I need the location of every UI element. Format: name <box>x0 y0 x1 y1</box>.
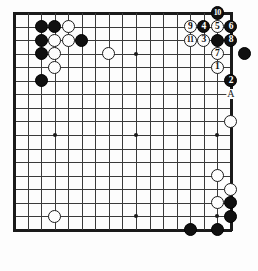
grid-line-vertical <box>122 13 123 230</box>
board-edge-vertical <box>13 12 16 231</box>
stone-black <box>224 210 237 223</box>
stone-black <box>184 223 197 236</box>
grid-line-vertical <box>163 13 164 230</box>
stone-white <box>48 61 61 74</box>
star-point <box>215 133 219 137</box>
stone-white <box>62 20 75 33</box>
stone-white <box>48 47 61 60</box>
stone-white <box>48 210 61 223</box>
move-stone-white-11: 11 <box>184 34 197 47</box>
move-number-label: 2 <box>225 75 236 86</box>
move-stone-white-5: 5 <box>211 20 224 33</box>
stone-black <box>224 196 237 209</box>
move-number-label: 6 <box>225 21 236 32</box>
stone-black <box>35 74 48 87</box>
stone-black <box>48 20 61 33</box>
grid-line-vertical <box>95 13 96 230</box>
move-stone-black-4: 4 <box>197 20 210 33</box>
star-point <box>134 214 138 218</box>
go-board-diagram: A9456101138712 <box>0 0 258 271</box>
move-stone-white-1: 1 <box>211 61 224 74</box>
move-number-label: 10 <box>212 7 223 18</box>
grid-line-vertical <box>177 13 178 230</box>
grid-line-vertical <box>136 13 137 230</box>
board-marker-a: A <box>226 89 235 99</box>
stone-white <box>224 115 237 128</box>
move-number-label: 8 <box>225 35 236 46</box>
stone-white <box>211 196 224 209</box>
move-stone-white-7: 7 <box>211 47 224 60</box>
move-number-label: 5 <box>212 21 223 32</box>
move-number-label: 1 <box>212 62 223 73</box>
stone-black <box>35 34 48 47</box>
stone-black <box>35 47 48 60</box>
move-stone-white-3: 3 <box>197 34 210 47</box>
grid-line-vertical <box>150 13 151 230</box>
move-number-label: 11 <box>185 35 196 46</box>
stone-black <box>211 223 224 236</box>
move-number-label: 9 <box>185 21 196 32</box>
move-stone-black-2: 2 <box>224 74 237 87</box>
star-point <box>134 52 138 56</box>
stone-white <box>48 34 61 47</box>
stone-black <box>35 20 48 33</box>
move-number-label: 4 <box>198 21 209 32</box>
stone-black <box>238 47 251 60</box>
go-board-grid: A9456101138712 <box>0 0 258 271</box>
stone-white <box>102 47 115 60</box>
stone-black <box>211 34 224 47</box>
move-stone-black-8: 8 <box>224 34 237 47</box>
star-point <box>215 214 219 218</box>
stone-white <box>211 169 224 182</box>
grid-line-vertical <box>28 13 29 230</box>
stone-black <box>75 34 88 47</box>
move-number-label: 7 <box>212 48 223 59</box>
star-point <box>134 133 138 137</box>
grid-line-vertical <box>109 13 110 230</box>
move-stone-white-9: 9 <box>184 20 197 33</box>
star-point <box>53 133 57 137</box>
stone-white <box>62 34 75 47</box>
stone-white <box>224 183 237 196</box>
move-number-label: 3 <box>198 35 209 46</box>
move-stone-black-6: 6 <box>224 20 237 33</box>
move-stone-black-10: 10 <box>211 6 224 19</box>
